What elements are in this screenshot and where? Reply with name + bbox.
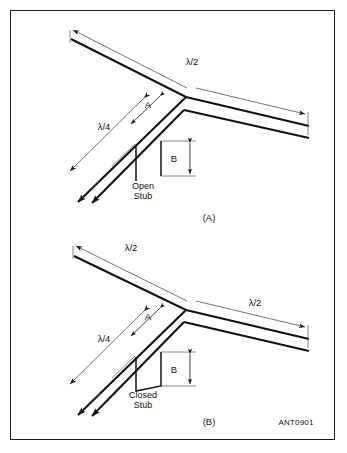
panel-a-label-half-wave-right: λ/2: [186, 56, 199, 67]
panel-a-diagram: λ/2 λ/4 A B Open Stub (A): [70, 30, 309, 223]
panel-b-label-quarter-wave: λ/4: [98, 333, 111, 344]
panel-b-dim-quarter-ext-bot: [80, 393, 100, 412]
panel-a-dim-b: [161, 141, 196, 176]
panel-b-label-half-wave-right: λ/2: [249, 297, 262, 308]
panel-b-dim-left-line: [76, 246, 187, 301]
panel-a-label-b: B: [171, 153, 177, 164]
panel-a-dim-right-line: [196, 88, 305, 114]
panel-b-upper-conductor: [74, 256, 309, 339]
panel-a-dim-quarter-line: [70, 98, 144, 171]
panel-a-dim-left-half-wave: [70, 30, 187, 88]
panel-a-stub-label-line2: Stub: [134, 191, 153, 201]
panel-b-dim-b: [161, 352, 196, 386]
panel-a-upper-conductor: [71, 39, 309, 126]
panel-b-stub-label-line1: Closed: [129, 390, 157, 400]
figure-drawing: λ/2 λ/4 A B Open Stub (A): [0, 0, 347, 453]
panel-b-caption: (B): [203, 416, 216, 427]
panel-a-caption: (A): [203, 212, 216, 223]
panel-b-diagram: λ/2 λ/2 λ/4 A B Closed Stub (B): [70, 242, 309, 427]
panel-b-label-a: A: [145, 311, 152, 322]
panel-b-lower-conductor-right: [184, 322, 309, 351]
panel-b-label-half-wave-left: λ/2: [125, 242, 138, 253]
panel-a-dim-left-line: [73, 30, 187, 88]
panel-b-dim-left-half-wave: [73, 246, 187, 301]
panel-b-label-b: B: [171, 364, 177, 375]
panel-b-feed-pair: [78, 310, 186, 416]
figure-container: λ/2 λ/4 A B Open Stub (A): [0, 0, 347, 453]
panel-a-stub-label-line1: Open: [132, 181, 154, 191]
figure-code: ANT0901: [278, 418, 314, 427]
panel-b-stub-label-line2: Stub: [134, 400, 153, 410]
panel-a-dim-quarter-ext-bot: [80, 180, 100, 199]
panel-a-label-quarter-wave: λ/4: [98, 121, 111, 132]
panel-a-label-a: A: [145, 99, 152, 110]
panel-a-lower-conductor-right: [184, 110, 309, 138]
